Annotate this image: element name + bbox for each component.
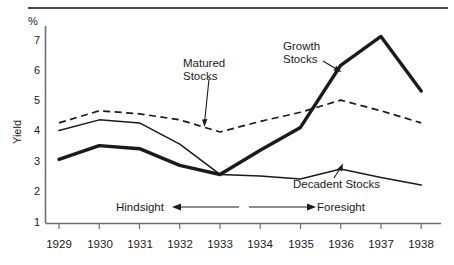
- hindsight-arrow-head: [172, 204, 181, 211]
- foresight-arrow-head: [307, 204, 316, 211]
- series-matured-stocks: [59, 100, 421, 132]
- chart-figure: % Yield 7 6 5 4 3 2 1 1929 1930 1931 193…: [0, 0, 454, 265]
- annotation-arrows: [202, 61, 343, 178]
- arrow-matured-leader: [205, 79, 210, 123]
- series-decadent-stocks: [59, 120, 421, 185]
- series-growth-stocks: [59, 36, 421, 174]
- axis-lines: [46, 26, 442, 229]
- plot-area: [0, 0, 454, 265]
- arrow-matured-head: [202, 119, 207, 127]
- hindsight-foresight-axis: [172, 204, 316, 211]
